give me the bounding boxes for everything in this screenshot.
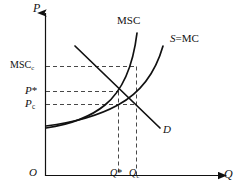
curve-label-d: D: [163, 124, 171, 135]
origin-label: O: [29, 167, 37, 178]
curve-label-msc: MSC: [117, 15, 140, 26]
y-tick-label-p-star: P*: [25, 85, 37, 96]
x-tick-label-q-c: Qc: [129, 168, 139, 178]
externality-diagram: P Q O MSCc P* Pc Q* Qc MSC S=MC D: [0, 0, 239, 189]
curve-label-mc: =MC: [176, 32, 199, 44]
x-axis-label: Q: [224, 168, 233, 180]
y-axis-label: P: [33, 2, 40, 14]
y-tick-label-msc-c: MSCc: [10, 60, 34, 70]
y-tick-p-star-sup: *: [32, 84, 38, 96]
y-tick-msc-c-main: MSC: [10, 59, 31, 70]
y-tick-p-c-sub: c: [32, 103, 35, 111]
y-tick-label-p-c: Pc: [25, 98, 35, 109]
y-tick-p-star-main: P: [25, 84, 32, 96]
y-tick-msc-c-sub: c: [31, 64, 34, 71]
curve-label-s-mc: S=MC: [170, 33, 199, 44]
y-tick-p-c-main: P: [25, 97, 32, 109]
curve-msc: [46, 33, 137, 128]
x-tick-label-q-star: Q*: [110, 168, 122, 178]
x-tick-q-c-sub: c: [136, 172, 139, 179]
x-tick-q-star-sup: *: [117, 167, 122, 178]
